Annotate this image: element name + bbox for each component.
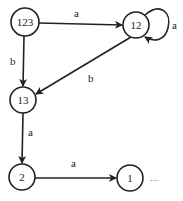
edge-12-to-13: [36, 37, 131, 94]
edge-label-13-2: a: [28, 126, 33, 138]
edge-label-12-12: a: [172, 19, 177, 31]
node-label: 1: [127, 172, 133, 184]
edge-123-to-12: [39, 23, 122, 25]
node-12: 12: [123, 12, 149, 38]
node-13: 13: [10, 87, 36, 113]
state-diagram: a a b b a a 123 12 13 2 1 ...: [0, 0, 183, 201]
edge-label-2-1: a: [71, 157, 76, 169]
edge-123-to-13: [23, 36, 24, 86]
node-2: 2: [9, 164, 35, 190]
node-label: 12: [131, 19, 142, 31]
edge-label-123-13: b: [10, 55, 16, 67]
node-label: 2: [19, 171, 25, 183]
edge-13-to-2: [22, 113, 23, 163]
node-label: 123: [17, 16, 34, 28]
node-label: 13: [18, 94, 30, 106]
node-123: 123: [11, 8, 39, 36]
edge-label-123-12: a: [74, 7, 79, 19]
continuation-ellipsis: ...: [150, 171, 159, 183]
node-1: 1: [117, 165, 143, 191]
edge-label-12-13: b: [88, 72, 94, 84]
